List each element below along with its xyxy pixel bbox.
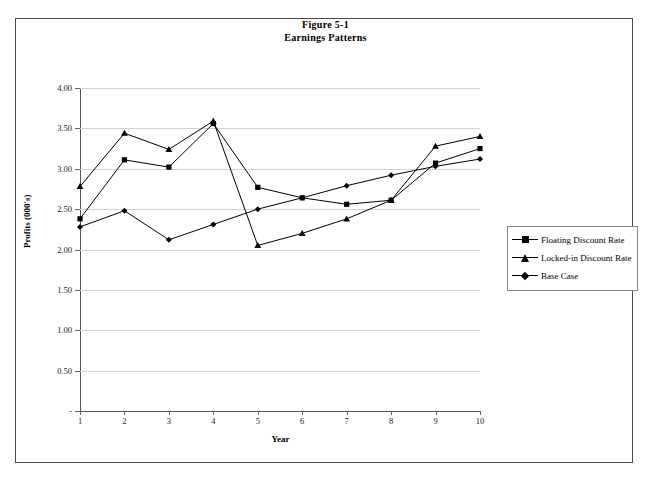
x-tick-label: 8 (389, 417, 393, 426)
x-tick (80, 411, 81, 415)
chart-title-line2: Earnings Patterns (0, 31, 651, 44)
data-point-marker (344, 183, 350, 189)
data-point-marker (121, 130, 128, 136)
diamond-marker (512, 271, 538, 281)
series-line (80, 159, 480, 240)
y-tick-label: 0.50 (57, 367, 72, 375)
legend-item-label: Locked-in Discount Rate (538, 253, 631, 263)
x-tick-label: 7 (345, 417, 349, 426)
data-point-marker (210, 221, 216, 227)
x-tick (169, 411, 170, 415)
y-tick-label: 2.00 (57, 246, 72, 254)
y-axis-title: Profits (000's) (22, 194, 32, 248)
data-point-marker (344, 202, 349, 207)
x-tick-label: 2 (122, 417, 126, 426)
x-tick-label: 10 (476, 417, 485, 426)
data-point-marker (77, 216, 82, 221)
x-tick (213, 411, 214, 415)
chart-title-line1: Figure 5-1 (0, 18, 651, 31)
data-point-marker (343, 215, 350, 221)
data-point-marker (388, 172, 394, 178)
triangle-marker (512, 253, 538, 263)
x-tick (124, 411, 125, 415)
legend-item[interactable]: Floating Discount Rate (512, 231, 631, 249)
data-point-marker (166, 165, 171, 170)
plot-area: 4.003.503.002.502.001.501.000.50- 123456… (80, 88, 480, 411)
y-tick-label: 1.00 (57, 326, 72, 334)
y-tick-label: 2.50 (57, 205, 72, 213)
data-point-marker (122, 157, 127, 162)
data-point-marker (255, 206, 261, 212)
series-line (80, 121, 480, 245)
y-tick-label: - (69, 407, 72, 415)
data-point-marker (255, 185, 260, 190)
data-point-marker (121, 208, 127, 214)
y-tick-label: 3.00 (57, 165, 72, 173)
x-tick (391, 411, 392, 415)
data-series-layer (80, 88, 480, 411)
x-tick (302, 411, 303, 415)
x-tick-label: 1 (78, 417, 82, 426)
series-line (80, 124, 480, 219)
chart-title: Figure 5-1 Earnings Patterns (0, 18, 651, 44)
legend-item[interactable]: Locked-in Discount Rate (512, 249, 631, 267)
x-tick (347, 411, 348, 415)
x-tick-label: 3 (167, 417, 171, 426)
legend-item[interactable]: Base Case (512, 267, 631, 285)
data-point-marker (210, 118, 217, 124)
x-tick-label: 6 (300, 417, 304, 426)
data-point-marker (477, 146, 482, 151)
x-tick (436, 411, 437, 415)
x-tick-label: 4 (211, 417, 215, 426)
data-point-marker (166, 237, 172, 243)
x-tick (480, 411, 481, 415)
x-tick-label: 9 (433, 417, 437, 426)
square-marker (512, 235, 538, 245)
x-axis-title: Year (80, 434, 481, 444)
y-tick-label: 1.50 (57, 286, 72, 294)
y-tick-label: 3.50 (57, 124, 72, 132)
legend-item-label: Floating Discount Rate (538, 235, 625, 245)
x-tick-label: 5 (256, 417, 260, 426)
chart-legend: Floating Discount RateLocked-in Discount… (507, 226, 638, 291)
x-axis-line (80, 411, 481, 412)
x-tick (258, 411, 259, 415)
y-tick-label: 4.00 (57, 84, 72, 92)
legend-item-label: Base Case (538, 271, 578, 281)
